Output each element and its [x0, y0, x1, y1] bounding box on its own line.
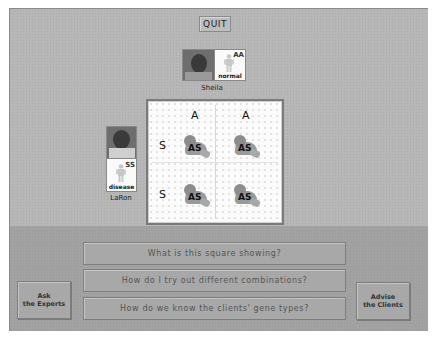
control-area: What is this square showing? How do I tr…: [10, 226, 428, 331]
grid-divider-horizontal: [152, 162, 278, 163]
advise-clients-line2: the Clients: [363, 301, 403, 309]
laron-genotype: SS: [125, 161, 135, 169]
offspring-cell-2[interactable]: AS: [231, 135, 261, 159]
sheila-genotype: AA: [233, 51, 244, 59]
sheila-name: Sheila: [192, 84, 232, 92]
advise-clients-line1: Advise: [371, 293, 395, 301]
main-panel: QUIT AA normal Sheila: [9, 8, 428, 331]
column-allele-1: A: [191, 109, 199, 122]
sheila-photo: [182, 49, 215, 81]
offspring-cell-4[interactable]: AS: [231, 184, 261, 208]
offspring-genotype: AS: [238, 143, 251, 153]
offspring-cell-3[interactable]: AS: [181, 184, 211, 208]
advise-clients-button[interactable]: Advise the Clients: [356, 282, 410, 320]
laron-photo: [106, 126, 137, 159]
sheila-status: normal: [215, 72, 245, 79]
laron-name: LaRon: [101, 194, 141, 202]
laron-genotype-card: SS disease: [106, 158, 137, 192]
ask-experts-line1: Ask: [37, 292, 50, 300]
ask-experts-line2: the Experts: [23, 300, 65, 308]
question-button-combinations[interactable]: How do I try out different combinations?: [83, 269, 346, 292]
sheila-genotype-card: AA normal: [214, 49, 246, 81]
punnett-square[interactable]: A A S S AS AS AS AS: [146, 99, 284, 225]
laron-status: disease: [107, 183, 136, 190]
offspring-genotype: AS: [188, 143, 201, 153]
ask-experts-button[interactable]: Ask the Experts: [17, 281, 71, 319]
offspring-cell-1[interactable]: AS: [181, 135, 211, 159]
question-button-gene-types[interactable]: How do we know the clients' gene types?: [83, 297, 346, 320]
row-allele-2: S: [159, 188, 166, 201]
column-allele-2: A: [242, 109, 250, 122]
row-allele-1: S: [159, 139, 166, 152]
offspring-genotype: AS: [188, 192, 201, 202]
question-button-square[interactable]: What is this square showing?: [83, 242, 346, 265]
quit-button[interactable]: QUIT: [199, 16, 231, 32]
offspring-genotype: AS: [238, 192, 251, 202]
